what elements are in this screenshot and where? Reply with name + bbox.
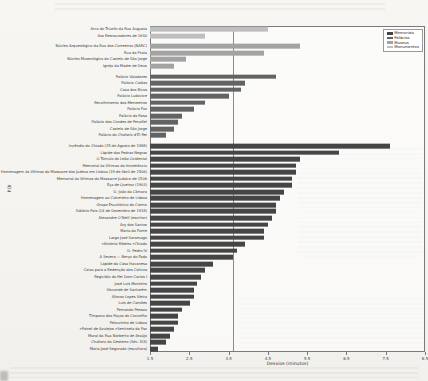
bar-label: José Luís Monteiro (0, 282, 150, 286)
bar-label: Aos Restauradores de 1640 (0, 34, 150, 38)
bar-memoriais (150, 176, 291, 181)
bar-palácios (150, 87, 240, 92)
bar-label: Mural da Rua Norberto de Araújo (0, 334, 150, 338)
bar-memoriais (150, 301, 189, 306)
bar-label: Núcleo Museológico do Castelo de São Jor… (0, 57, 150, 61)
bar-label: Palácio dos Condes de Penafiel (0, 120, 150, 124)
bar-memoriais (150, 144, 390, 149)
bar-monumentos (150, 27, 268, 32)
x-tick-label: 2.5 (186, 356, 192, 361)
bar-label: D. João da Câmara (0, 190, 150, 194)
x-tick-label: 3.5 (225, 356, 231, 361)
bar-monumentos (150, 33, 205, 38)
bar-palácios (150, 133, 166, 138)
bar-memoriais (150, 170, 295, 175)
x-tick-label: 7.5 (383, 356, 389, 361)
bar-label: Palácio Caldas (0, 81, 150, 85)
bar-label: O Túmulo do Leão Ocidental (0, 157, 150, 161)
x-tick-label: 6.5 (343, 356, 349, 361)
bar-label: Palácio da Rosa (0, 114, 150, 118)
bar-label: Tímpano dos Paços do Concelho (0, 314, 150, 318)
bar-label: Palácio Foz (0, 107, 150, 111)
bar-track (150, 33, 425, 40)
bar-label: A Severa — Berço do Fado (0, 255, 150, 259)
bar-palácios (150, 120, 178, 125)
bar-label: Painel de Azulejos «Sentinela da Paz» (0, 327, 150, 331)
bar-museus (150, 51, 264, 56)
bar-memoriais (150, 314, 178, 319)
bar-label: Regicídio do Rei Dom Carlos I (0, 275, 150, 279)
bar-memoriais (150, 281, 197, 286)
x-tick-label: 1.5 (147, 356, 153, 361)
bar-label: Ary dos Santos (0, 223, 150, 227)
bar-label: Eça de Queiroz (1903) (0, 183, 150, 187)
bar-label: Palácio Ludovice (0, 94, 150, 98)
bar-label: Maria da Fonte (0, 229, 150, 233)
bar-palácios (150, 100, 205, 105)
bar-label: António Ribeiro «Chiado» (0, 242, 150, 246)
x-tick-label: 5.5 (304, 356, 310, 361)
bar-memoriais (150, 229, 264, 234)
chart-rows: Arco do Triunfo da Rua AugustaAos Restau… (0, 26, 425, 352)
bar-memoriais (150, 222, 268, 227)
bar-palácios (150, 113, 181, 118)
bar-palácios (150, 94, 229, 99)
bar-memoriais (150, 268, 205, 273)
bar-memoriais (150, 242, 244, 247)
bar-memoriais (150, 275, 201, 280)
bar-memoriais (150, 248, 236, 253)
bar-museus (150, 64, 174, 69)
bar-track (150, 346, 425, 353)
bar-label: Homenagem às Vítimas do Massacre dos Jud… (0, 170, 150, 174)
bar-memoriais (150, 163, 295, 168)
bar-label: Caixa para a Redenção dos Cativos (0, 268, 150, 272)
bar-track (150, 132, 425, 139)
bar-palácios (150, 107, 193, 112)
chart-row: Igreja da Madre de Deus (0, 63, 425, 70)
bar-label: Fernando Pessoa (0, 308, 150, 312)
bar-label: Recolhimento dos Merceeiros (0, 101, 150, 105)
bar-museus (150, 44, 299, 49)
bar-label: Chafariz do Desterro (Séc. XIX) (0, 340, 150, 344)
bar-label: Palácio do Chafariz d'El Rei (0, 133, 150, 137)
x-tick-label: 4.5 (265, 356, 271, 361)
bar-label: Maria José Segurado (escultora) (0, 347, 150, 351)
bar-label: Memorial às Vítimas da Intolerância (0, 164, 150, 168)
bar-label: Castelo de São Jorge (0, 127, 150, 131)
bar-label: Luís de Camões (0, 301, 150, 305)
chart-row: Palácio do Chafariz d'El Rei (0, 132, 425, 139)
bar-label: Homenagem ao Calceteiro de Lisboa (0, 196, 150, 200)
x-axis-label: Desvios (minutos) (150, 361, 425, 366)
bar-memoriais (150, 334, 170, 339)
bar-label: Memorial às Vítimas do Massacre Judaico … (0, 177, 150, 181)
bar-memoriais (150, 183, 291, 188)
chart-row: Aos Restauradores de 1640 (0, 33, 425, 40)
bar-label: Grupo Escultórico do Carmo (0, 203, 150, 207)
bar-memoriais (150, 203, 276, 208)
chart-row: Maria José Segurado (escultora) (0, 346, 425, 353)
bar-label: Palácio Valadares (0, 75, 150, 79)
bar-museus (150, 57, 185, 62)
bar-memoriais (150, 262, 213, 267)
bar-label: Núcleo Arqueológico da Rua dos Correeiro… (0, 44, 150, 48)
bar-memoriais (150, 307, 181, 312)
bar-memoriais (150, 288, 193, 293)
bar-memoriais (150, 209, 276, 214)
bar-memoriais (150, 320, 178, 325)
bar-label: Pelourinho de Lisboa (0, 321, 150, 325)
x-tick-label: 8.5 (422, 356, 428, 361)
bar-memoriais (150, 150, 339, 155)
bar-label: Visconde de Santarém (0, 288, 150, 292)
bar-label: Afonso Lopes Vieira (0, 295, 150, 299)
bar-memoriais (150, 340, 166, 345)
bar-label: Casa dos Bicos (0, 88, 150, 92)
bar-label: Sidónio Pais (14 de Dezembro de 1918) (0, 209, 150, 213)
bar-memoriais (150, 190, 284, 195)
bar-chart-figure: POI MemoriaisPaláciosMuseusMonumentos Ar… (0, 0, 428, 381)
bar-label: Alexandre O'Neill (escritor) (0, 216, 150, 220)
bar-memoriais (150, 255, 233, 260)
bar-memoriais (150, 347, 158, 352)
bar-palácios (150, 127, 174, 132)
bar-palácios (150, 81, 244, 86)
bar-memoriais (150, 216, 272, 221)
